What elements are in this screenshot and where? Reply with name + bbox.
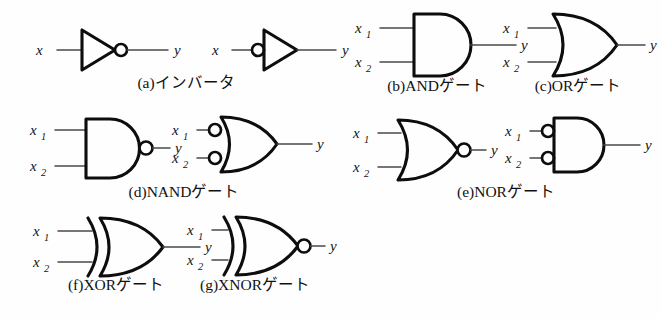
input-label-x1: x	[502, 20, 510, 36]
input-label-x: x	[211, 42, 219, 58]
caption-nand: (d)NANDゲート	[129, 183, 240, 201]
input-label-x1: x	[354, 20, 362, 36]
input-sub-x1: 1	[514, 29, 519, 40]
input-sub-x1: 1	[44, 232, 49, 243]
input-label-x2: x	[186, 252, 194, 268]
inverter-variant-output-bubble: x y	[35, 30, 181, 70]
nor-variant-or-output-bubble: x 1 x 2 y	[352, 120, 498, 180]
gate-group-xor: x 1 x 2 y (f)XORゲート	[32, 218, 212, 294]
output-label-y: y	[340, 42, 349, 58]
output-label-y: y	[203, 239, 212, 255]
input-sub-x2: 2	[364, 168, 370, 179]
output-label-y: y	[172, 42, 181, 58]
input-label-x1: x	[29, 122, 37, 138]
input-sub-x1: 1	[198, 231, 203, 242]
inversion-bubble-icon	[140, 142, 153, 155]
input-inversion-bubble-x1-icon	[209, 124, 221, 136]
nor-variant-and-input-bubbles: x 1 x 2 y	[504, 118, 652, 172]
output-label-y: y	[648, 37, 657, 53]
inversion-bubble-icon	[252, 44, 264, 56]
input-label-x2: x	[171, 150, 179, 166]
input-sub-x1: 1	[516, 132, 521, 143]
input-label-x1: x	[352, 125, 360, 141]
inversion-bubble-icon	[298, 240, 311, 253]
gate-group-xnor: x 1 x 2 y (g)XNORゲート	[186, 217, 337, 294]
input-label-x2: x	[354, 54, 362, 70]
output-label-y: y	[489, 142, 498, 158]
output-label-y: y	[519, 37, 528, 53]
caption-and: (b)ANDゲート	[387, 77, 487, 95]
input-label-x2: x	[502, 54, 510, 70]
gate-group-or: x 1 x 2 y (c)ORゲート	[502, 14, 657, 95]
input-inversion-bubble-x2-icon	[209, 152, 221, 164]
or-gate-body-icon	[553, 14, 617, 76]
and-gate-body-icon	[554, 118, 604, 172]
input-sub-x1: 1	[183, 131, 188, 142]
gate-group-inverter: x y x y (a)インバータ	[35, 30, 349, 92]
input-label-x1: x	[171, 122, 179, 138]
inverter-triangle-icon	[264, 30, 297, 70]
input-label-x2: x	[504, 150, 512, 166]
input-sub-x1: 1	[366, 29, 371, 40]
input-sub-x1: 1	[364, 134, 369, 145]
output-label-y: y	[315, 136, 324, 152]
figure-canvas: x y x y (a)インバータ x 1 x 2 y (b)ANDゲート x	[0, 0, 661, 318]
input-label-x1: x	[186, 222, 194, 238]
input-sub-x1: 1	[41, 131, 46, 142]
input-label-x2: x	[32, 254, 40, 270]
and-gate-body-icon	[414, 14, 471, 76]
input-sub-x2: 2	[514, 63, 520, 74]
inversion-bubble-icon	[115, 44, 127, 56]
caption-or: (c)ORゲート	[535, 77, 622, 95]
input-sub-x2: 2	[366, 63, 372, 74]
gate-group-nor: x 1 x 2 y x 1 x 2 y (e)NORゲート	[352, 118, 652, 201]
nand-variant-and-output-bubble: x 1 x 2 y	[29, 119, 182, 178]
input-label-x: x	[35, 42, 43, 58]
caption-xnor: (g)XNORゲート	[200, 276, 310, 294]
caption-xor: (f)XORゲート	[68, 276, 164, 294]
xor-extra-arc-icon	[88, 218, 97, 276]
caption-nor: (e)NORゲート	[457, 183, 555, 201]
input-label-x2: x	[29, 158, 37, 174]
caption-inverter: (a)インバータ	[137, 74, 234, 92]
inverter-variant-input-bubble: x y	[211, 30, 349, 70]
nand-variant-or-input-bubbles: x 1 x 2 y	[171, 117, 324, 172]
gate-group-and: x 1 x 2 y (b)ANDゲート	[354, 14, 528, 95]
input-sub-x2: 2	[516, 159, 522, 170]
and-gate-body-icon	[86, 119, 140, 178]
input-sub-x2: 2	[183, 159, 189, 170]
or-gate-body-icon	[100, 218, 163, 276]
input-sub-x2: 2	[44, 263, 50, 274]
inversion-bubble-icon	[458, 144, 471, 157]
input-label-x1: x	[504, 123, 512, 139]
input-label-x2: x	[352, 159, 360, 175]
input-sub-x2: 2	[198, 261, 204, 272]
xor-extra-arc-icon	[224, 217, 233, 275]
input-label-x1: x	[32, 223, 40, 239]
or-gate-body-icon	[221, 117, 277, 172]
inverter-triangle-icon	[82, 30, 115, 70]
input-inversion-bubble-x1-icon	[542, 125, 554, 137]
or-gate-body-icon	[398, 120, 458, 180]
output-label-y: y	[328, 238, 337, 254]
output-label-y: y	[643, 137, 652, 153]
gate-group-nand: x 1 x 2 y x 1 x 2 y (d)NANDゲート	[29, 117, 324, 201]
input-sub-x2: 2	[41, 167, 47, 178]
or-gate-body-icon	[236, 217, 298, 275]
input-inversion-bubble-x2-icon	[542, 152, 554, 164]
